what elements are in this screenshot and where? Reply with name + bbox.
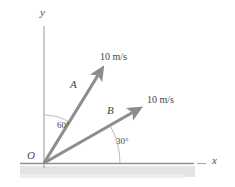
y-axis-label: y [40, 7, 45, 18]
ground-band-fade [20, 174, 185, 178]
origin-label: O [27, 150, 35, 161]
vector-a-label: A [70, 79, 77, 90]
vector-diagram-figure: y x O A 10 m/s B 10 m/s 60° 30° [0, 0, 235, 187]
vector-b-label: B [107, 105, 114, 116]
vector-b-magnitude-label: 10 m/s [147, 95, 174, 105]
x-axis-label: x [212, 155, 217, 166]
angle-60-label: 60° [57, 121, 70, 130]
diagram-canvas [0, 0, 235, 187]
angle-30-label: 30° [116, 137, 129, 146]
vector-a-magnitude-label: 10 m/s [100, 52, 127, 62]
